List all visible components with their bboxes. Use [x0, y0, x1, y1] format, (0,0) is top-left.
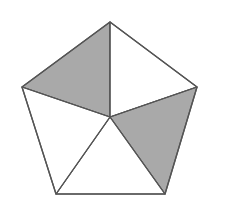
pentagon-diagram [0, 0, 228, 213]
